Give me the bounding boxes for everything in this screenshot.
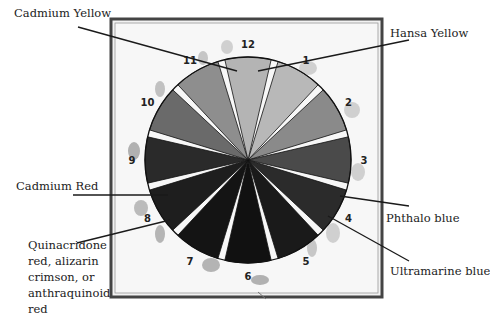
segment-number-9: 9 (129, 155, 136, 166)
label-phthalo-blue: Phthalo blue (386, 211, 460, 225)
segment-number-2: 2 (345, 97, 352, 108)
segment-number-7: 7 (187, 256, 194, 267)
label-hansa-yellow: Hansa Yellow (390, 26, 468, 40)
segment-number-5: 5 (303, 256, 310, 267)
segment-number-8: 8 (144, 213, 151, 224)
segment-number-12: 12 (241, 39, 255, 50)
label-quinacridone-red: Quinacridone red, alizarin crimson, or a… (28, 237, 112, 317)
segment-number-4: 4 (345, 213, 352, 224)
segment-number-6: 6 (245, 271, 252, 282)
segment-number-3: 3 (361, 155, 368, 166)
label-cadmium-red: Cadmium Red (16, 179, 98, 193)
segment-number-10: 10 (141, 97, 155, 108)
label-cadmium-yellow: Cadmium Yellow (14, 6, 111, 20)
label-ultramarine-blue: Ultramarine blue (390, 264, 490, 278)
